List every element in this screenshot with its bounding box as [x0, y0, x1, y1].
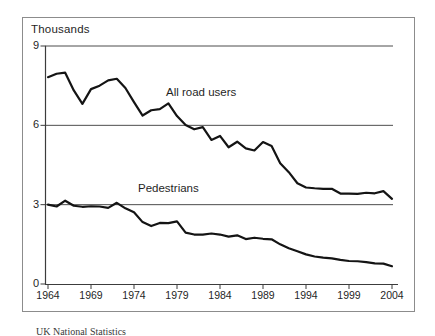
series-line-pedestrians: [48, 201, 392, 267]
series-label-pedestrians: Pedestrians: [138, 182, 199, 194]
chart-figure: Thousands All road users Pedestrians 963…: [0, 0, 435, 336]
line-chart-canvas: [0, 0, 435, 336]
y-axis-unit-label: Thousands: [31, 23, 90, 35]
series-label-all-road-users: All road users: [166, 86, 236, 98]
source-caption: UK National Statistics: [36, 326, 126, 336]
